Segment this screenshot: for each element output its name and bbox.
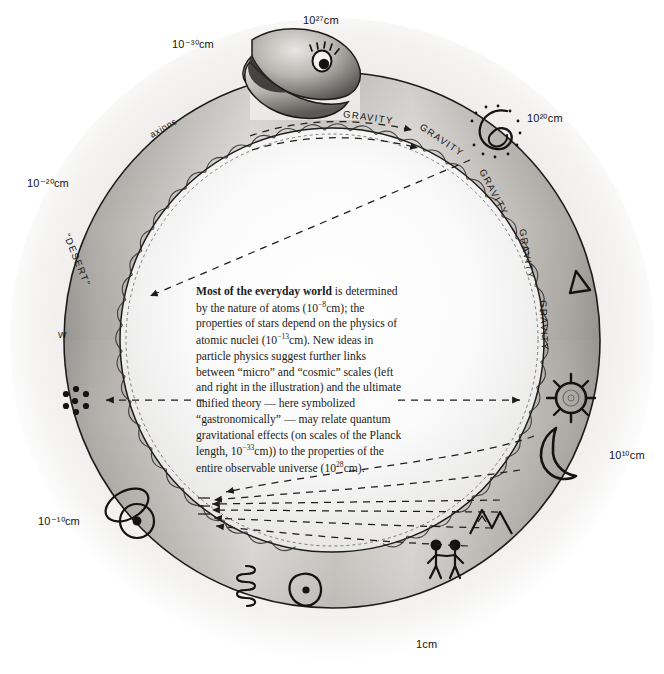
scale-label-bottom: 1cm bbox=[416, 638, 437, 650]
scale-label-top: 10²⁷cm bbox=[303, 14, 339, 26]
scale-label-left: 10⁻²⁰cm bbox=[27, 177, 69, 190]
caption-exp-atom: −8 bbox=[318, 300, 326, 309]
caption-lead: Most of the everyday world bbox=[196, 285, 332, 298]
body-word-wboson: W bbox=[58, 330, 67, 340]
caption-exp-planck: −33 bbox=[242, 443, 254, 452]
scale-label-upper-right: 10²⁰cm bbox=[527, 112, 563, 125]
caption-body-3: cm). New ideas in particle physics sugge… bbox=[196, 334, 401, 458]
scale-label-lower-right: 10¹⁰cm bbox=[609, 449, 645, 462]
caption-body-5: cm). bbox=[344, 462, 365, 475]
scale-label-upper-left: 10⁻³⁰cm bbox=[172, 38, 214, 51]
caption-exp-nucleus: −13 bbox=[277, 332, 289, 341]
scale-label-lower-left: 10⁻¹⁰cm bbox=[38, 515, 80, 528]
figure-caption: Most of the everyday world is determined… bbox=[196, 284, 406, 477]
ouroboros-diagram: Most of the everyday world is determined… bbox=[0, 0, 664, 674]
caption-exp-universe: 28 bbox=[336, 460, 344, 469]
body-word-gravity-5: GRAVITY bbox=[538, 300, 551, 351]
